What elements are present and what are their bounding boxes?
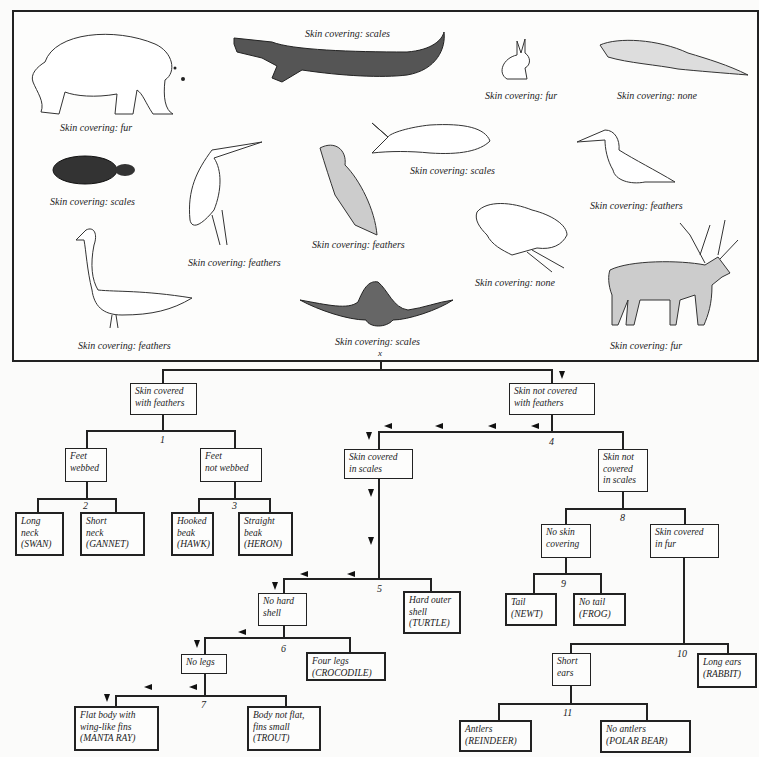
connector [684, 508, 686, 524]
connector [204, 674, 206, 695]
step-number: 10 [677, 648, 687, 659]
node-no-legs: No legs [181, 654, 227, 674]
connector [283, 626, 285, 637]
connector [646, 703, 648, 720]
connector [622, 431, 624, 449]
arrow-down-icon [366, 432, 372, 440]
connector [115, 695, 117, 706]
step-number: 2 [83, 500, 88, 511]
hawk-caption: Skin covering: feathers [312, 239, 405, 250]
arrow-down-icon [104, 694, 110, 702]
arrow-down-icon [559, 371, 565, 379]
arrow-down-icon [272, 582, 278, 590]
polar-bear-illustration [25, 22, 175, 122]
arrow-left-icon [144, 684, 152, 690]
connector [37, 498, 116, 500]
connector [204, 637, 206, 654]
leaf-gannet: Shortneck(GANNET) [80, 512, 145, 556]
arrow-left-icon [347, 571, 355, 577]
reindeer-caption: Skin covering: fur [610, 340, 682, 351]
node-feathers: Skin coveredwith feathers [130, 383, 197, 415]
node-no-skin-covering: No skincovering [541, 524, 591, 558]
connector [600, 573, 602, 593]
arrow-left-icon [189, 684, 197, 690]
arrow-left-icon [531, 423, 539, 429]
node-fur: Skin coveredin fur [650, 524, 719, 558]
connector [86, 430, 88, 448]
node-scales: Skin coveredin scales [344, 449, 413, 479]
reindeer-illustration [600, 215, 740, 330]
connector [198, 498, 200, 512]
connector [570, 643, 572, 653]
arrow-left-icon [435, 423, 443, 429]
node-not-scales: Skin notcoveredin scales [598, 449, 648, 492]
connector [565, 558, 567, 573]
leaf-manta-ray: Flat body withwing-like fins(MANTA RAY) [74, 706, 159, 751]
connector [565, 508, 685, 510]
gannet-caption: Skin covering: feathers [590, 200, 683, 211]
node-no-hard-shell: No hardshell [258, 593, 307, 626]
connector [565, 508, 567, 524]
connector [551, 369, 553, 383]
rabbit-illustration [495, 33, 545, 83]
connector [204, 637, 350, 639]
connector [234, 430, 236, 448]
connector [430, 578, 432, 591]
root-label: x [378, 348, 382, 358]
connector [283, 578, 431, 580]
connector [551, 415, 553, 431]
connector [115, 498, 117, 512]
step-number: 4 [549, 436, 554, 447]
node-not-feathers: Skin not coveredwith feathers [509, 383, 595, 415]
trout-caption: Skin covering: scales [410, 165, 495, 176]
leaf-hawk: Hookedbeak(HAWK) [171, 512, 214, 556]
crocodile-caption: Skin covering: scales [305, 28, 390, 39]
leaf-frog: No tail(FROG) [573, 593, 626, 626]
step-number: 9 [561, 578, 566, 589]
polar-bear-caption: Skin covering: fur [60, 122, 132, 133]
frog-caption: Skin covering: none [475, 277, 555, 288]
connector [533, 573, 535, 593]
leaf-newt: Tail(NEWT) [505, 593, 557, 626]
leaf-turtle: Hard outershell(TURTLE) [403, 591, 461, 634]
node-feet-not-webbed: Feetnot webbed [200, 448, 262, 482]
connector [37, 498, 39, 512]
connector [285, 695, 287, 706]
heron-caption: Skin covering: feathers [188, 257, 281, 268]
connector [378, 479, 380, 578]
newt-caption: Skin covering: none [617, 90, 697, 101]
connector [162, 415, 164, 430]
connector [498, 703, 647, 705]
leaf-heron: Straightbeak(HERON) [238, 512, 293, 556]
connector [162, 369, 164, 383]
frog-illustration [472, 200, 572, 275]
step-number: 1 [160, 434, 165, 445]
step-number: 5 [377, 583, 382, 594]
connector [727, 643, 729, 653]
leaf-polar-bear: No antlers(POLAR BEAR) [600, 720, 691, 753]
step-number: 6 [281, 643, 286, 654]
connector [570, 643, 728, 645]
connector [86, 482, 88, 498]
turtle-illustration [45, 150, 140, 190]
connector [283, 578, 285, 593]
gannet-illustration [575, 110, 685, 195]
node-short-ears: Shortears [552, 653, 591, 686]
leaf-trout: Body not flat,fins small(TROUT) [247, 706, 321, 751]
newt-illustration [598, 35, 750, 85]
turtle-caption: Skin covering: scales [50, 196, 135, 207]
arrow-left-icon [488, 423, 496, 429]
manta-ray-illustration [298, 280, 458, 330]
step-number: 3 [232, 500, 237, 511]
connector [162, 369, 552, 371]
connector [683, 558, 685, 643]
swan-caption: Skin covering: feathers [78, 340, 171, 351]
node-feet-webbed: Feetwebbed [65, 448, 107, 482]
connector [378, 431, 622, 433]
leaf-reindeer: Antlers(REINDEER) [459, 720, 532, 752]
step-number: 8 [620, 512, 625, 523]
crocodile-illustration [232, 30, 447, 95]
leaf-swan: Longneck(SWAN) [15, 512, 64, 556]
step-number: 11 [563, 707, 572, 718]
arrow-left-icon [300, 571, 308, 577]
